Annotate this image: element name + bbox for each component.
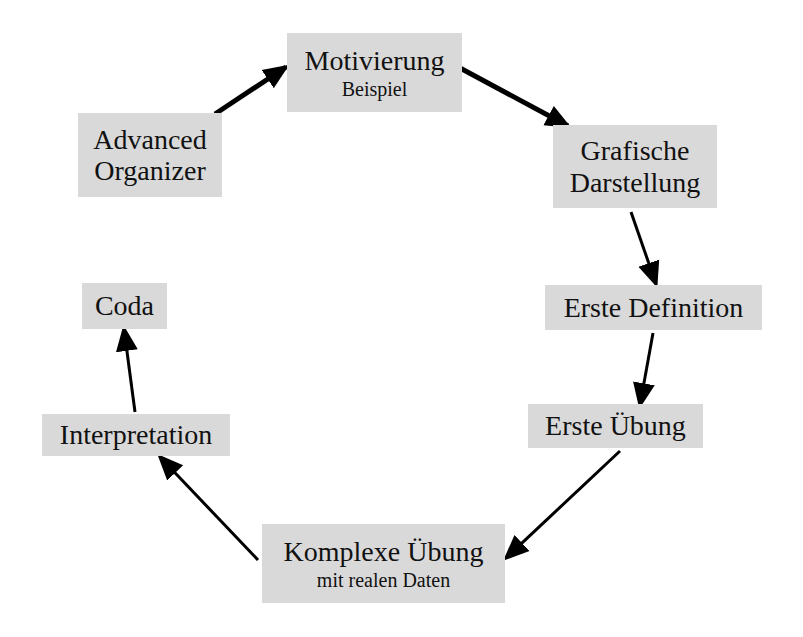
node-label-line2: Darstellung [570,167,701,198]
node-label: Interpretation [60,419,212,450]
node-sublabel: mit realen Daten [317,569,450,591]
node-label: Erste Übung [545,410,686,441]
node-label: Erste Definition [564,292,744,323]
cycle-diagram: Motivierung Beispiel Grafische Darstellu… [0,0,803,637]
node-label-line2: Organizer [94,155,205,186]
node-interpretation: Interpretation [42,414,230,456]
node-coda: Coda [82,283,167,329]
node-advanced-organizer: Advanced Organizer [78,113,222,197]
arrow-erste-uebung-to-komplexe [506,451,620,558]
node-erste-uebung: Erste Übung [528,404,703,448]
arrow-organizer-to-motivierung [215,67,286,114]
node-grafische-darstellung: Grafische Darstellung [553,125,717,208]
node-label: Coda [95,290,154,321]
arrow-motivierung-to-grafische [460,68,568,126]
node-label: Motivierung [305,45,445,76]
node-komplexe-uebung: Komplexe Übung mit realen Daten [262,524,505,603]
node-erste-definition: Erste Definition [545,285,762,330]
node-sublabel: Beispiel [342,78,408,100]
arrow-komplexe-to-interpretation [160,457,258,560]
node-motivierung: Motivierung Beispiel [287,33,462,112]
arrow-definition-to-erste-uebung [640,333,653,405]
arrow-interpretation-to-coda [124,329,135,412]
node-label: Advanced [93,124,207,155]
arrow-grafische-to-definition [631,212,656,284]
node-label: Grafische [581,135,690,166]
node-label: Komplexe Übung [284,536,484,567]
